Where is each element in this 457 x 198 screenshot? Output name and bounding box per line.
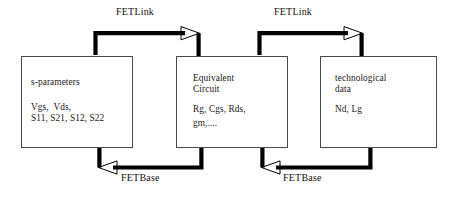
connector-link-2 (260, 27, 363, 56)
box-equivalent-circuit-line-2: gm,.... (193, 118, 217, 129)
box-equivalent-circuit-heading: Equivalent Circuit (193, 73, 234, 95)
box-technological-data[interactable]: technological data Nd, Lg (320, 56, 437, 148)
connector-label-link-2: FETLink (274, 6, 312, 17)
box-technological-data-line-1: Nd, Lg (335, 104, 362, 115)
box-s-parameters[interactable]: s-parameters Vgs, Vds, S11, S21, S12, S2… (21, 56, 133, 148)
box-s-parameters-line-2: S11, S21, S12, S22 (31, 113, 104, 124)
connector-label-link-1: FETLink (116, 6, 154, 17)
box-technological-data-heading: technological data (335, 73, 386, 95)
connector-label-base-1: FETBase (121, 172, 160, 183)
connector-link-1 (96, 27, 200, 56)
connector-base-2 (262, 148, 371, 174)
box-s-parameters-heading: s-parameters (31, 77, 80, 88)
box-s-parameters-line-1: Vgs, Vds, (31, 102, 71, 113)
box-equivalent-circuit[interactable]: Equivalent Circuit Rg, Cgs, Rds, gm,.... (176, 56, 288, 148)
connector-base-1 (99, 148, 202, 174)
box-equivalent-circuit-line-1: Rg, Cgs, Rds, (193, 104, 246, 115)
connector-label-base-2: FETBase (283, 172, 322, 183)
diagram-canvas: s-parameters Vgs, Vds, S11, S21, S12, S2… (0, 0, 457, 198)
